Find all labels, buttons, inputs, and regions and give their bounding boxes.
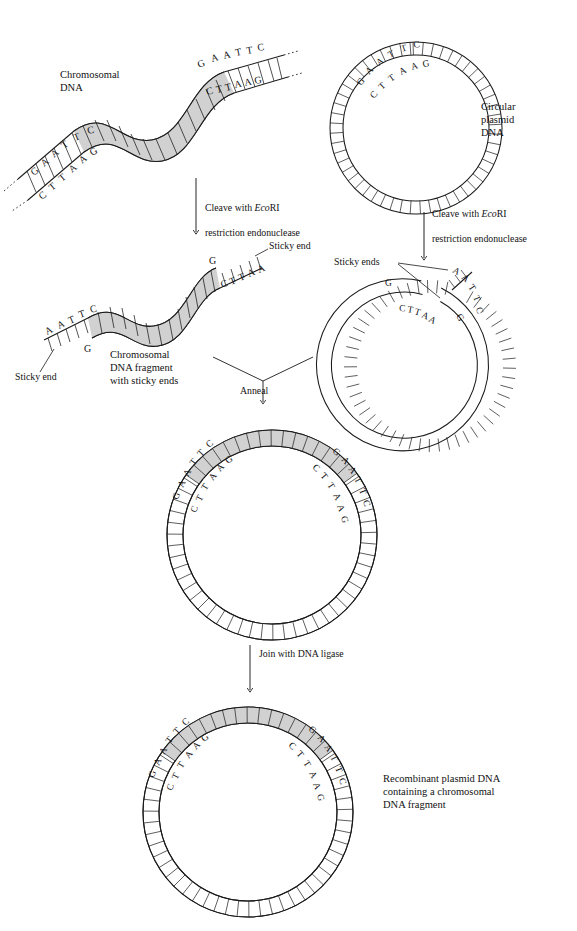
label-recombinant-caption: Recombinant plasmid DNA containing a chr… (383, 772, 500, 811)
svg-text:T: T (224, 81, 233, 93)
svg-text:A: A (331, 491, 343, 502)
svg-text:T: T (199, 482, 211, 492)
svg-text:T: T (56, 171, 68, 183)
svg-text:T: T (357, 487, 369, 496)
cleave-right-enzyme-italic: Eco (482, 208, 497, 219)
svg-text:A: A (214, 461, 226, 473)
svg-text:T: T (77, 307, 87, 319)
svg-text:G: G (170, 491, 182, 501)
svg-text:A: A (374, 55, 386, 67)
svg-text:C: C (188, 504, 200, 513)
annealed-plasmid-molecule: G A A T T C C T T A A G G A A T T C C T … (167, 430, 377, 640)
svg-text:T: T (328, 753, 340, 763)
cleaved-plasmid-left-top: G (385, 278, 392, 288)
label-cleave-right: Cleave with EcoRI restriction endonuclea… (432, 196, 527, 245)
cleave-right-prefix: Cleave with (432, 208, 482, 219)
svg-text:G: G (339, 515, 350, 524)
svg-text:T: T (471, 294, 483, 304)
label-fragment-caption: Chromosomal DNA fragment with sticky end… (110, 348, 178, 387)
svg-text:C: C (36, 189, 48, 202)
svg-text:G: G (28, 164, 41, 177)
svg-text:C: C (287, 740, 298, 752)
svg-text:T: T (386, 72, 397, 84)
svg-text:T: T (66, 313, 76, 326)
svg-text:T: T (325, 481, 337, 492)
cleave-left-line2: restriction endonuclease (205, 227, 300, 238)
cleave-right-line2: restriction endonuclease (432, 233, 527, 244)
label-chromosomal-dna: Chromosomal DNA (60, 68, 120, 94)
svg-text:T: T (301, 759, 313, 770)
sequence-right-top: G A A T T C (196, 41, 266, 70)
figure-canvas: G A A T T C C T T A A G G A A T T C C T … (0, 0, 577, 931)
svg-text:G: G (253, 74, 262, 86)
label-cleave-left: Cleave with EcoRI restriction endonuclea… (205, 190, 300, 239)
svg-text:C: C (368, 89, 380, 100)
svg-text:C: C (474, 306, 485, 314)
circular-plasmid-molecule: G A A T T C C T T A A G (330, 39, 502, 214)
cleave-left-enzyme-italic: Eco (255, 202, 270, 213)
svg-text:A: A (307, 769, 319, 780)
svg-text:T: T (407, 304, 415, 315)
svg-text:A: A (190, 739, 202, 751)
label-sticky-end-upper: Sticky end (269, 240, 311, 252)
cleave-left-prefix: Cleave with (205, 202, 255, 213)
svg-text:A: A (222, 48, 232, 61)
svg-text:G: G (196, 57, 207, 70)
svg-text:T: T (399, 42, 408, 53)
svg-text:T: T (234, 46, 242, 58)
svg-text:G: G (88, 145, 100, 158)
svg-text:G: G (315, 793, 326, 802)
svg-text:A: A (410, 60, 420, 72)
svg-text:A: A (311, 781, 323, 791)
svg-text:C: C (361, 499, 372, 508)
svg-text:A: A (451, 265, 462, 277)
svg-text:A: A (48, 146, 61, 160)
svg-text:A: A (183, 749, 195, 761)
cleaved-plasmid-left-bottom: C T T A A (399, 303, 438, 326)
svg-text:A: A (176, 478, 188, 488)
cleaved-plasmid-molecule: G C T T A A A A T T C G (305, 263, 516, 462)
label-anneal: Anneal (240, 385, 268, 397)
cleaved-plasmid-right-top: A A T T C (451, 265, 485, 314)
svg-text:A: A (207, 471, 219, 483)
svg-text:T: T (466, 282, 478, 293)
svg-text:A: A (43, 323, 55, 336)
svg-text:G: G (199, 731, 211, 743)
svg-text:T: T (59, 138, 70, 150)
svg-text:A: A (246, 266, 258, 279)
label-sticky-end-lower: Sticky end (15, 371, 57, 383)
svg-text:C: C (311, 462, 322, 474)
svg-text:C: C (256, 41, 265, 53)
svg-text:C: C (164, 782, 176, 791)
label-join-ligase: Join with DNA ligase (259, 648, 344, 660)
svg-text:A: A (66, 161, 79, 175)
fragment-right-bottom-sequence: C T T A A (219, 262, 267, 290)
svg-text:A: A (460, 272, 472, 284)
svg-text:A: A (256, 262, 268, 275)
svg-text:T: T (175, 760, 187, 770)
fragment-left-bottom-sequence: G (84, 343, 91, 354)
svg-text:T: T (46, 180, 58, 192)
sequence-left-bottom: C T T A A G (36, 145, 99, 202)
svg-text:A: A (397, 65, 408, 77)
svg-text:T: T (377, 80, 388, 91)
label-circular-plasmid-dna: Circular plasmid DNA (481, 100, 515, 139)
svg-text:C: C (337, 777, 348, 786)
svg-text:C: C (399, 303, 406, 313)
svg-text:A: A (210, 51, 221, 64)
cleave-left-enzyme-roman: RI (270, 202, 280, 213)
svg-text:T: T (170, 771, 182, 781)
svg-text:A: A (76, 152, 89, 166)
svg-text:T: T (294, 749, 305, 760)
svg-text:T: T (318, 471, 329, 482)
svg-text:G: G (385, 278, 392, 288)
cleave-right-enzyme-roman: RI (497, 208, 507, 219)
svg-text:C: C (413, 39, 421, 50)
svg-text:T: T (194, 493, 206, 503)
chromosomal-dna-molecule: G A A T T C C T T A A G G A A T T C C T … (4, 41, 302, 211)
svg-text:A: A (335, 503, 347, 513)
svg-text:G: G (422, 58, 430, 69)
svg-text:T: T (352, 475, 364, 485)
recombinant-plasmid-molecule: G A A T T C C T T A A G G A A T T C C T … (143, 707, 353, 917)
svg-text:C: C (89, 302, 99, 315)
